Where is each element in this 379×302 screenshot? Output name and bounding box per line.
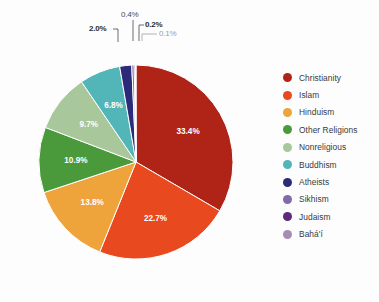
pie-slice-label: 10.9% <box>64 156 88 165</box>
legend-item-label: Christianity <box>299 73 341 83</box>
legend-item-label: Islam <box>299 90 319 100</box>
callout-label-judaism: 0.2% <box>145 20 162 29</box>
legend-swatch-icon <box>283 160 292 169</box>
pie-slice-label: 13.8% <box>81 198 105 207</box>
legend-swatch-icon <box>283 230 292 239</box>
leader-line-bahai <box>142 34 157 41</box>
leader-line-judaism <box>139 25 144 41</box>
legend-swatch-icon <box>283 91 292 100</box>
pie-slice[interactable] <box>135 65 136 162</box>
legend-item-label: Hinduism <box>299 107 334 117</box>
pie-plot-area: 33.4%22.7%13.8%10.9%9.7%6.8% 2.0% 0.4% 0… <box>0 0 270 302</box>
legend-item[interactable]: Nonreligious <box>283 139 379 156</box>
legend-item[interactable]: Islam <box>283 86 379 103</box>
pie-slice-label: 33.4% <box>176 127 200 136</box>
pie-slice-label: 22.7% <box>144 214 168 223</box>
legend-swatch-icon <box>283 125 292 134</box>
chart-legend: ChristianityIslamHinduismOther Religions… <box>283 69 379 243</box>
callout-label-sikhism: 0.4% <box>121 10 138 19</box>
pie-slice-label: 9.7% <box>79 120 98 129</box>
legend-item[interactable]: Sikhism <box>283 191 379 208</box>
legend-item-label: Sikhism <box>299 194 329 204</box>
legend-swatch-icon <box>283 73 292 82</box>
legend-item[interactable]: Judaism <box>283 208 379 225</box>
callout-label-atheists: 2.0% <box>89 24 106 33</box>
pie-slice-label: 6.8% <box>104 101 123 110</box>
legend-item-label: Atheists <box>299 177 329 187</box>
legend-item[interactable]: Bahá'í <box>283 226 379 243</box>
pie-svg: 33.4%22.7%13.8%10.9%9.7%6.8% <box>0 0 270 302</box>
legend-item-label: Buddhism <box>299 160 337 170</box>
legend-item-label: Nonreligious <box>299 142 346 152</box>
legend-swatch-icon <box>283 195 292 204</box>
legend-swatch-icon <box>283 108 292 117</box>
legend-item-label: Other Religions <box>299 125 357 135</box>
legend-item-label: Judaism <box>299 212 331 222</box>
legend-item[interactable]: Christianity <box>283 69 379 86</box>
legend-swatch-icon <box>283 178 292 187</box>
legend-item[interactable]: Atheists <box>283 173 379 190</box>
legend-item[interactable]: Buddhism <box>283 156 379 173</box>
legend-item[interactable]: Other Religions <box>283 121 379 138</box>
legend-swatch-icon <box>283 143 292 152</box>
pie-chart-figure: 33.4%22.7%13.8%10.9%9.7%6.8% 2.0% 0.4% 0… <box>0 0 379 302</box>
legend-item[interactable]: Hinduism <box>283 104 379 121</box>
legend-swatch-icon <box>283 212 292 221</box>
leader-line-atheists <box>113 29 118 42</box>
callout-label-bahai: 0.1% <box>159 29 176 38</box>
legend-item-label: Bahá'í <box>299 229 323 239</box>
